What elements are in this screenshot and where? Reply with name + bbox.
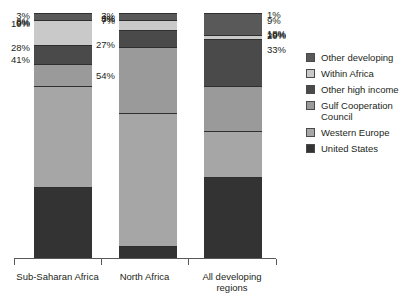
segment-united-states: 5%: [119, 246, 177, 258]
stacked-bar: 9% 1% 20% 18% 19% 33%: [204, 13, 262, 258]
segment-gulf-cooperation-council: 9%: [34, 64, 92, 86]
axis-tick: [276, 259, 277, 265]
category-label-all-developing-regions: All developing regions: [188, 271, 276, 293]
category-label-north-africa: North Africa: [101, 271, 188, 282]
legend-swatch-icon: [306, 101, 315, 110]
segment-united-states: 28%: [34, 187, 92, 258]
legend-item-gulf-cooperation-council: Gulf Cooperation Council: [306, 100, 402, 122]
category-label-sub-saharan-africa: Sub-Saharan Africa: [14, 271, 101, 282]
legend-item-other-developing: Other developing: [306, 52, 402, 63]
legend-swatch-icon: [306, 53, 315, 62]
legend-label: Gulf Cooperation Council: [321, 100, 402, 122]
value-label: 28%: [11, 43, 30, 53]
legend: Other developing Within Africa Other hig…: [306, 52, 402, 159]
segment-western-europe: 19%: [204, 131, 262, 178]
axis-tick: [14, 259, 15, 265]
legend-swatch-icon: [306, 85, 315, 94]
segment-other-developing: 3%: [34, 13, 92, 20]
bar-group-all-developing-regions: 9% 1% 20% 18% 19% 33%: [204, 13, 262, 258]
segment-united-states: 33%: [204, 177, 262, 258]
axis-tick: [101, 259, 102, 265]
value-label: 27%: [96, 40, 115, 50]
segment-within-africa: 4%: [119, 20, 177, 30]
bar-group-north-africa: 3% 4% 7% 27% 54% 5%: [119, 13, 177, 258]
segment-western-europe: 41%: [34, 86, 92, 186]
legend-label: Western Europe: [321, 127, 389, 138]
value-label: 1%: [267, 10, 281, 20]
stacked-bar-chart: 3% 10% 8% 9% 41% 28%: [0, 0, 402, 296]
segment-other-developing: 9%: [204, 13, 262, 35]
segment-other-high-income: 20%: [204, 39, 262, 87]
x-axis-line: [14, 258, 276, 259]
legend-swatch-icon: [306, 144, 315, 153]
legend-item-other-high-income: Other high income: [306, 84, 402, 95]
legend-label: Other high income: [321, 84, 399, 95]
legend-item-western-europe: Western Europe: [306, 127, 402, 138]
segment-western-europe: 54%: [119, 113, 177, 245]
legend-label: Within Africa: [321, 68, 374, 79]
value-label: 5%: [101, 14, 115, 24]
segment-other-high-income: 8%: [34, 45, 92, 65]
stacked-bar: 3% 10% 8% 9% 41% 28%: [34, 13, 92, 258]
stacked-bar: 3% 4% 7% 27% 54% 5%: [119, 13, 177, 258]
value-label: 33%: [267, 45, 286, 55]
plot-area: 3% 10% 8% 9% 41% 28%: [0, 0, 290, 296]
value-label: 19%: [267, 30, 286, 40]
legend-label: Other developing: [321, 52, 393, 63]
legend-swatch-icon: [306, 69, 315, 78]
segment-gulf-cooperation-council: 27%: [119, 47, 177, 113]
value-label: 54%: [96, 71, 115, 81]
axis-tick: [188, 259, 189, 265]
legend-label: United States: [321, 143, 378, 154]
legend-swatch-icon: [306, 128, 315, 137]
value-label: 41%: [11, 55, 30, 65]
segment-other-developing: 3%: [119, 13, 177, 20]
segment-other-high-income: 7%: [119, 30, 177, 47]
segment-gulf-cooperation-council: 18%: [204, 86, 262, 130]
bar-group-sub-saharan-africa: 3% 10% 8% 9% 41% 28%: [34, 13, 92, 258]
segment-within-africa: 10%: [34, 20, 92, 45]
legend-item-united-states: United States: [306, 143, 402, 154]
legend-item-within-africa: Within Africa: [306, 68, 402, 79]
value-label: 9%: [16, 18, 30, 28]
